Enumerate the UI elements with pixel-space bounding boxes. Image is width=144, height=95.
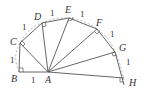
segment-EF <box>69 18 97 29</box>
label-H: H <box>128 77 137 88</box>
dashed-arc <box>16 18 124 80</box>
length-BC: 1 <box>10 55 15 65</box>
length-DE: 1 <box>50 8 55 18</box>
segment-AF <box>48 29 97 72</box>
segment-AH <box>48 72 124 78</box>
right-angle-B <box>19 68 23 72</box>
length-EF: 1 <box>80 9 85 19</box>
segment-AE <box>48 18 69 72</box>
segment-GH <box>115 52 124 85</box>
radial-lines <box>20 18 124 78</box>
segment-AC <box>20 43 48 72</box>
diagram-canvas: B A C D E F G H 1 1 1 1 1 1 1 <box>0 0 144 95</box>
segment-AG <box>48 52 115 72</box>
length-GH: 1 <box>126 57 131 67</box>
label-D: D <box>33 11 42 22</box>
vertex-labels: B A C D E F G H <box>10 4 137 88</box>
length-FG: 1 <box>110 29 115 39</box>
label-B: B <box>11 73 17 84</box>
label-A: A <box>44 74 52 85</box>
label-E: E <box>64 4 71 15</box>
spiral-diagram: B A C D E F G H 1 1 1 1 1 1 1 <box>0 0 144 95</box>
length-AB: 1 <box>31 75 36 85</box>
segment-AD <box>42 23 48 72</box>
label-F: F <box>95 17 103 28</box>
label-G: G <box>119 42 126 53</box>
label-C: C <box>10 36 17 47</box>
segment-DE <box>42 18 69 23</box>
length-CD: 1 <box>22 22 27 32</box>
